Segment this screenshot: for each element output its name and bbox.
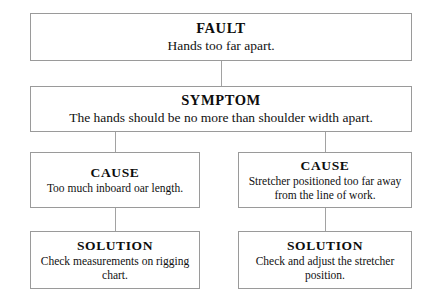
node-fault-body: Hands too far apart. (163, 38, 278, 54)
node-cause-left-title: CAUSE (91, 165, 140, 181)
node-fault-title: FAULT (196, 20, 246, 37)
connector-symptom-to-cause-right (325, 132, 326, 152)
node-cause-left-body: Too much inboard oar length. (43, 182, 187, 196)
node-solution-left-title: SOLUTION (77, 238, 153, 254)
connector-cause-left-to-solution-left (115, 208, 116, 231)
node-cause-left: CAUSE Too much inboard oar length. (30, 152, 200, 208)
node-fault: FAULT Hands too far apart. (30, 13, 412, 61)
node-solution-right: SOLUTION Check and adjust the stretcher … (238, 231, 412, 289)
node-symptom-title: SYMPTOM (181, 92, 261, 109)
node-solution-right-title: SOLUTION (287, 238, 363, 254)
connector-cause-right-to-solution-right (325, 208, 326, 231)
node-solution-left: SOLUTION Check measurements on rigging c… (30, 231, 200, 289)
flowchart-canvas: FAULT Hands too far apart. SYMPTOM The h… (0, 0, 439, 307)
connector-symptom-to-cause-left (115, 132, 116, 152)
node-solution-left-body: Check measurements on rigging chart. (31, 255, 199, 282)
node-solution-right-body: Check and adjust the stretcher position. (239, 255, 411, 282)
node-cause-right: CAUSE Stretcher positioned too far away … (238, 152, 412, 208)
connector-fault-to-symptom (221, 61, 222, 86)
node-cause-right-title: CAUSE (301, 158, 350, 174)
node-cause-right-body: Stretcher positioned too far away from t… (239, 175, 411, 202)
node-symptom: SYMPTOM The hands should be no more than… (30, 86, 412, 132)
node-symptom-body: The hands should be no more than shoulde… (65, 110, 377, 126)
